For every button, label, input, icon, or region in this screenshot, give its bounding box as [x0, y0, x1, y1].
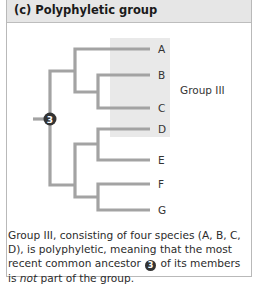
taxon-c-label: C: [158, 102, 165, 114]
taxon-a-label: A: [158, 43, 166, 55]
svg-text:3: 3: [47, 115, 53, 125]
group-label: Group III: [180, 84, 225, 96]
taxon-f-label: F: [158, 178, 164, 190]
taxon-e-label: E: [158, 154, 165, 166]
caption: Group III, consisting of four species (A…: [8, 228, 248, 284]
phylogenetic-tree: 3 A B C D E F G Group III: [0, 0, 259, 230]
taxon-g-label: G: [158, 204, 166, 216]
taxon-b-label: B: [158, 69, 165, 81]
taxon-d-label: D: [158, 123, 166, 135]
ancestor-node-icon: 3: [145, 260, 156, 271]
caption-text-3: part of the group.: [37, 272, 134, 284]
caption-emphasis: not: [20, 272, 37, 284]
ancestor-node: 3: [44, 113, 57, 126]
